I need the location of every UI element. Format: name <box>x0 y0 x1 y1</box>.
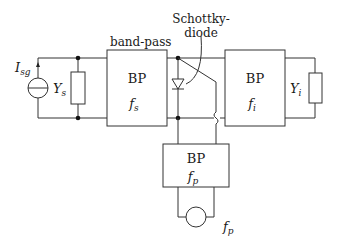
signal-source-section: Isg Ys <box>14 56 107 121</box>
diode-caption-line1: Schottky- <box>172 12 230 26</box>
junction-dot <box>76 56 81 61</box>
bandpass-caption: band-pass <box>110 35 171 49</box>
source-admittance-label: Ys <box>53 81 67 98</box>
pump-frequency-label: fp <box>222 219 234 236</box>
load-admittance-label: Yi <box>290 81 302 98</box>
load-section: Yi <box>285 58 322 118</box>
source-current-label: Isg <box>14 60 31 77</box>
junction-dot <box>76 116 81 121</box>
diode-pointer <box>186 36 201 84</box>
diode-caption-line2: diode <box>184 26 218 40</box>
bandpass-pump-block: BP fp <box>163 144 229 187</box>
bandpass-idler-block: BP fi <box>225 50 285 126</box>
bp-idler-title: BP <box>246 71 265 86</box>
pump-source-section: fp <box>178 187 234 236</box>
bandpass-signal-block: band-pass BP fs <box>107 35 171 126</box>
bp-pump-title: BP <box>187 151 206 166</box>
diode-section: Schottky- diode <box>167 12 230 144</box>
schottky-diode-icon <box>172 79 184 89</box>
bp-signal-title: BP <box>128 71 147 86</box>
circuit-diagram: Isg Ys band-pass BP fs Schottky- diode <box>0 0 339 246</box>
source-admittance-resistor <box>71 72 85 104</box>
pump-source-icon <box>186 207 206 227</box>
load-admittance-resistor <box>309 73 322 103</box>
